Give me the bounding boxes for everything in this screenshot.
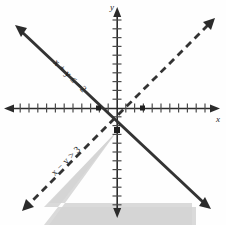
y-axis-label: y [109,2,114,12]
solid-line-inequality-label: x + y ≤ −2 [51,57,88,94]
point-marker-intersection [114,127,120,133]
x-axis-label: x [215,114,220,124]
y-axis-up-arrowhead [113,7,121,17]
solid-boundary-line [22,32,203,202]
x-axis-left-arrowhead [4,105,14,113]
dashed-line-lower-left-arrowhead [22,199,34,211]
point-marker-solid-x-intercept [96,106,101,111]
point-marker-dashed-x-intercept [140,106,145,111]
x-axis-right-arrowhead [210,105,220,113]
inequality-graph-figure: x + y ≤ −2 x − y > 3 y x [0,0,226,225]
coordinate-plane-svg: x + y ≤ −2 x − y > 3 y x [0,0,226,225]
